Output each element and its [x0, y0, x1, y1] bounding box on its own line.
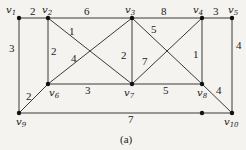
edge-weight-label: 5	[151, 23, 157, 35]
edge-weight-label: 1	[69, 25, 75, 37]
edge-weight-label: 4	[71, 52, 77, 64]
vertex-labels: v1v2v3v4v5v6v7v8v9v10	[6, 4, 239, 129]
vertex-v1	[17, 16, 21, 20]
edge-weight-label: 2	[51, 45, 57, 57]
edge-weight-label: 7	[142, 55, 148, 67]
edge-weight-label: 8	[161, 5, 167, 17]
vertex-label: v7	[124, 87, 135, 100]
edge-weight-label: 3	[213, 5, 219, 17]
vertex-label: v10	[224, 116, 239, 129]
vertex-label: v4	[193, 4, 203, 17]
vertex-label: v6	[49, 87, 60, 100]
vertex-label: v5	[228, 4, 239, 17]
vertex-label: v3	[125, 4, 136, 17]
weighted-graph: 268332142571423547 v1v2v3v4v5v6v7v8v9v10…	[0, 0, 246, 150]
vertex-label: v9	[16, 116, 27, 129]
vertex-label: v1	[6, 4, 16, 17]
vertex-v8	[200, 82, 204, 86]
graph-edges	[19, 18, 232, 113]
vertex-v10	[230, 111, 234, 115]
vertex-label: v2	[42, 4, 53, 17]
vertex-label: v8	[197, 87, 208, 100]
edge-weight-label: 7	[128, 113, 134, 125]
figure-caption: (a)	[120, 133, 133, 146]
edge-weight-label: 1	[193, 48, 199, 60]
edge-weight-label: 3	[85, 84, 91, 96]
edge-weight-label: 4	[216, 84, 222, 96]
edge-weight-label: 5	[163, 84, 169, 96]
edge-weight-label: 3	[9, 42, 15, 54]
edge-weight-label: 2	[121, 49, 127, 61]
unlabeled-point	[200, 111, 204, 115]
vertex-v6	[46, 82, 50, 86]
edge-weight-label: 2	[30, 5, 36, 17]
vertex-v7	[130, 82, 134, 86]
edge-weight-label: 2	[26, 90, 32, 102]
vertex-v9	[17, 111, 21, 115]
edge-v6-v9	[19, 84, 48, 113]
edge-weight-label: 4	[236, 39, 242, 51]
edge-weight-label: 6	[84, 5, 90, 17]
